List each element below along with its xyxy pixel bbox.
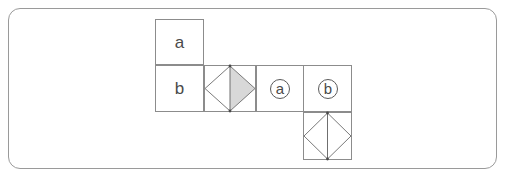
circled-a-text: a [276, 81, 284, 96]
net-cell-circled-b-label: b [304, 65, 352, 112]
vertex-dot [326, 112, 329, 115]
diamond-shaded-right-half [230, 66, 255, 111]
net-cell-a-label: a [155, 19, 204, 65]
vertex-dot [326, 158, 329, 161]
net-cell-b-label: b [155, 65, 204, 112]
circle-ring-icon: a [270, 79, 290, 99]
letter-b-text: b [175, 80, 184, 97]
vertex-dot [229, 110, 232, 113]
net-cell-circled-a-label: a [256, 65, 304, 112]
letter-a-text: a [175, 34, 184, 51]
circle-ring-icon: b [318, 79, 338, 99]
circled-b-text: b [324, 81, 332, 96]
cube-net-grid-layer [0, 0, 506, 178]
vertex-dot [229, 65, 232, 68]
